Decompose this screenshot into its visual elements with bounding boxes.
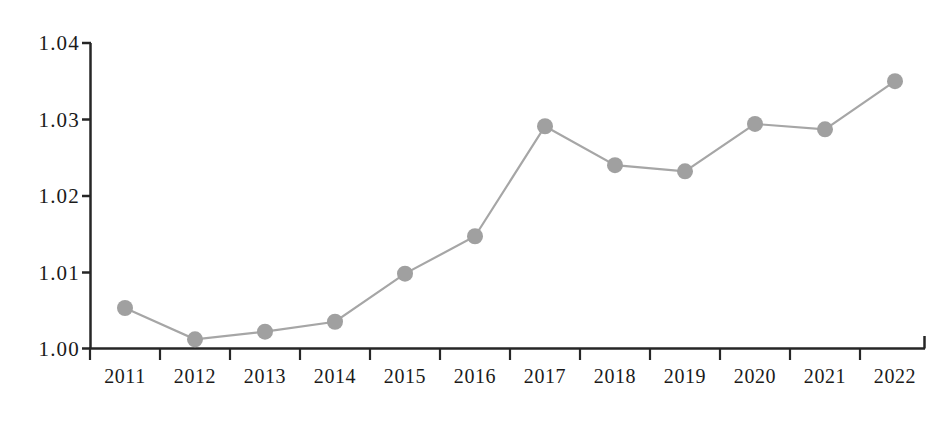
data-point-2015	[397, 266, 413, 282]
data-point-2016	[467, 228, 483, 244]
axes-group	[89, 43, 925, 349]
data-point-2017	[537, 118, 553, 134]
plot-svg	[0, 0, 951, 423]
data-point-2019	[677, 163, 693, 179]
data-point-2011	[117, 300, 133, 316]
data-point-2021	[817, 121, 833, 137]
data-point-2012	[187, 331, 203, 347]
series-markers-group	[117, 73, 903, 347]
data-point-2020	[747, 116, 763, 132]
series-line	[125, 81, 895, 339]
line-chart: 1.04 1.03 1.02 1.01 1.00 2011 2012 2013 …	[0, 0, 951, 423]
data-point-2022	[887, 73, 903, 89]
data-point-2014	[327, 314, 343, 330]
chart-page: 1.04 1.03 1.02 1.01 1.00 2011 2012 2013 …	[0, 0, 951, 423]
data-point-2018	[607, 157, 623, 173]
data-point-2013	[257, 324, 273, 340]
x-axis-ticks-group	[90, 349, 860, 360]
